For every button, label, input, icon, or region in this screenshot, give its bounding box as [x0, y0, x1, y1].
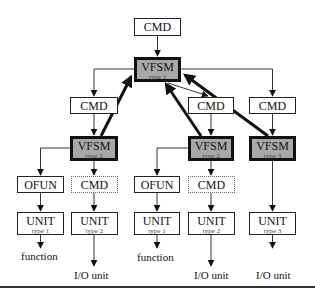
vfsm-hierarchy-diagram: CMD VFSM type 1 CMD VFSM type 2 OFUN CMD…	[0, 0, 315, 291]
top-cmd-label: CMD	[135, 19, 180, 34]
right-vfsm-type3: VFSM type 3	[249, 136, 296, 161]
middle-cmd-dashed-box: CMD	[188, 176, 235, 193]
left-cmd-dashed-label: CMD	[72, 177, 117, 192]
middle-unit-a-subtitle: type 1	[135, 228, 179, 235]
middle-output-io-unit: I/O unit	[194, 269, 229, 281]
vfsm-root-subtitle: type 1	[137, 74, 178, 81]
left-ofun-label: OFUN	[18, 177, 63, 192]
vfsm-root-label: VFSM	[137, 60, 178, 74]
middle-output-function: function	[137, 251, 174, 263]
right-vfsm-subtitle: type 3	[252, 153, 293, 160]
right-cmd-box: CMD	[249, 97, 296, 114]
left-unit-type1: UNIT type 1	[17, 212, 64, 235]
right-unit-label: UNIT	[250, 213, 295, 228]
left-ofun-box: OFUN	[17, 176, 64, 193]
vfsm-type1-root: VFSM type 1	[134, 57, 181, 82]
left-unit-a-label: UNIT	[18, 213, 63, 228]
right-unit-subtitle: type 3	[250, 228, 295, 235]
middle-vfsm-subtitle: type 2	[191, 153, 231, 160]
right-cmd-label: CMD	[250, 98, 295, 113]
left-unit-type2: UNIT type 2	[71, 212, 118, 235]
left-vfsm-type2: VFSM type 2	[70, 136, 118, 161]
right-vfsm-label: VFSM	[252, 139, 293, 153]
right-unit-type3: UNIT type 3	[249, 212, 296, 235]
left-cmd-dashed-box: CMD	[71, 176, 118, 193]
left-cmd-box: CMD	[70, 97, 118, 114]
left-cmd-label: CMD	[71, 98, 117, 113]
middle-unit-type1: UNIT type 1	[134, 212, 180, 235]
middle-unit-b-subtitle: type 2	[189, 228, 234, 235]
left-unit-a-subtitle: type 1	[18, 228, 63, 235]
left-vfsm-subtitle: type 2	[73, 153, 115, 160]
top-cmd-box: CMD	[134, 18, 181, 36]
left-unit-b-subtitle: type 2	[72, 228, 117, 235]
middle-ofun-label: OFUN	[135, 177, 179, 192]
middle-vfsm-label: VFSM	[191, 139, 231, 153]
left-output-function: function	[21, 250, 58, 262]
left-output-io-unit: I/O unit	[74, 269, 109, 281]
middle-unit-b-label: UNIT	[189, 213, 234, 228]
middle-cmd-box: CMD	[188, 97, 234, 114]
middle-cmd-label: CMD	[189, 98, 233, 113]
middle-ofun-box: OFUN	[134, 176, 180, 193]
middle-cmd-dashed-label: CMD	[189, 177, 234, 192]
bottom-rule	[0, 286, 315, 288]
left-vfsm-label: VFSM	[73, 139, 115, 153]
left-unit-b-label: UNIT	[72, 213, 117, 228]
middle-unit-a-label: UNIT	[135, 213, 179, 228]
right-output-io-unit: I/O unit	[256, 269, 291, 281]
middle-unit-type2: UNIT type 2	[188, 212, 235, 235]
middle-vfsm-type2: VFSM type 2	[188, 136, 234, 161]
